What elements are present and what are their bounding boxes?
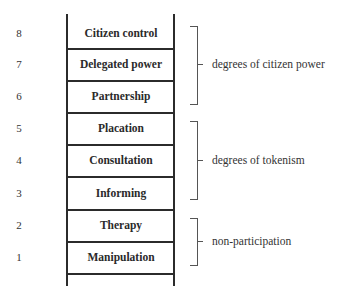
group-label-citizen-power: degrees of citizen power [212, 57, 325, 71]
rung-number: 7 [12, 57, 26, 71]
rung-label-therapy: Therapy [69, 218, 173, 232]
rung-number: 2 [12, 218, 26, 232]
rung-number: 3 [12, 186, 26, 200]
rung-number: 5 [12, 121, 26, 135]
bracket-icon [190, 218, 198, 266]
ladder-right-rail [173, 14, 175, 286]
bracket-tick [197, 64, 203, 65]
rung-number: 8 [12, 26, 26, 40]
rung-label-manipulation: Manipulation [69, 250, 173, 264]
rung-divider [67, 176, 175, 178]
rung-divider [67, 209, 175, 211]
rung-divider [67, 48, 175, 50]
rung-divider [67, 112, 175, 114]
bracket-tick [197, 241, 203, 242]
rung-divider [67, 273, 175, 275]
bracket-tick [197, 160, 203, 161]
rung-number: 4 [12, 153, 26, 167]
rung-divider [67, 80, 175, 82]
rung-divider [67, 241, 175, 243]
rung-divider [67, 144, 175, 146]
rung-label-informing: Informing [69, 186, 173, 200]
group-label-non-participation: non-participation [212, 234, 291, 248]
bracket-icon [190, 26, 198, 105]
rung-label-delegated-power: Delegated power [69, 57, 173, 71]
ladder-left-rail [66, 14, 68, 286]
group-label-tokenism: degrees of tokenism [212, 153, 305, 167]
rung-label-placation: Placation [69, 121, 173, 135]
rung-number: 1 [12, 250, 26, 264]
rung-number: 6 [12, 89, 26, 103]
rung-label-partnership: Partnership [69, 89, 173, 103]
rung-label-citizen-control: Citizen control [69, 26, 173, 40]
rung-label-consultation: Consultation [69, 153, 173, 167]
